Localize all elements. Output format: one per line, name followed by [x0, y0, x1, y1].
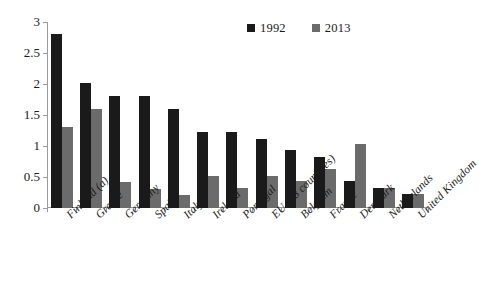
- bar-group: [223, 22, 252, 208]
- bar-group: [194, 22, 223, 208]
- bar-group: [369, 22, 398, 208]
- bar-group: [340, 22, 369, 208]
- bar-group: [106, 22, 135, 208]
- bar-1992: [51, 34, 62, 208]
- y-tick-label: 1.5: [24, 107, 40, 123]
- y-tick-label: 0: [34, 200, 41, 216]
- bar-group: [47, 22, 76, 208]
- y-tick-label: 2: [34, 76, 41, 92]
- y-tick-label: 0.5: [24, 169, 40, 185]
- y-tick-label: 3: [34, 14, 41, 30]
- bar-group: [164, 22, 193, 208]
- bar-group: [135, 22, 164, 208]
- bar-group: [252, 22, 281, 208]
- x-axis-category-labels: Finland (a)GreeceGermanySpainItalyIrelan…: [47, 208, 428, 305]
- bar-1992: [197, 132, 208, 208]
- bar-2013: [62, 127, 73, 208]
- y-tick-label: 2.5: [24, 45, 40, 61]
- y-tick-label: 1: [34, 138, 41, 154]
